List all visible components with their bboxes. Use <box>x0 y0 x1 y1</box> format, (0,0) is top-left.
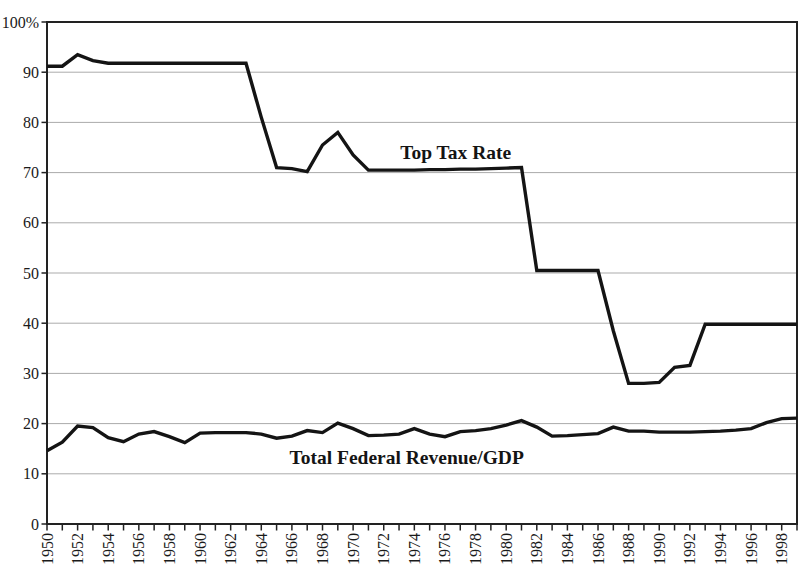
x-tick-label: 1958 <box>161 533 178 565</box>
y-tick-label: 90 <box>23 64 39 81</box>
x-tick-label: 1970 <box>345 533 362 565</box>
x-tick-label: 1954 <box>100 533 117 565</box>
y-tick-label: 10 <box>23 465 39 482</box>
y-tick-label: 0 <box>31 516 39 533</box>
x-tick-label: 1976 <box>436 533 453 565</box>
x-tick-label: 1984 <box>559 533 576 565</box>
tax-rate-vs-revenue-chart: 100%908070605040302010019501952195419561… <box>0 0 805 581</box>
x-tick-label: 1998 <box>773 533 790 565</box>
y-tick-label: 40 <box>23 315 39 332</box>
x-tick-label: 1982 <box>528 533 545 565</box>
x-tick-label: 1964 <box>253 533 270 565</box>
x-tick-label: 1966 <box>283 533 300 565</box>
x-tick-label: 1988 <box>620 533 637 565</box>
y-tick-label: 60 <box>23 214 39 231</box>
x-tick-label: 1962 <box>222 533 239 565</box>
series-label-total-federal-revenue-gdp: Total Federal Revenue/GDP <box>290 447 524 468</box>
x-tick-label: 1980 <box>498 533 515 565</box>
x-tick-label: 1974 <box>406 533 423 565</box>
x-tick-label: 1986 <box>590 533 607 565</box>
chart-svg: 100%908070605040302010019501952195419561… <box>0 0 805 581</box>
x-tick-label: 1960 <box>192 533 209 565</box>
x-tick-label: 1950 <box>39 533 56 565</box>
y-tick-label: 30 <box>23 365 39 382</box>
chart-page: 100%908070605040302010019501952195419561… <box>0 0 805 581</box>
y-tick-label: 50 <box>23 265 39 282</box>
x-tick-label: 1968 <box>314 533 331 565</box>
series-line-top-tax-rate <box>47 55 797 384</box>
x-tick-label: 1952 <box>69 533 86 565</box>
x-tick-label: 1996 <box>743 533 760 565</box>
y-tick-label: 20 <box>23 415 39 432</box>
y-tick-label: 80 <box>23 114 39 131</box>
x-tick-label: 1992 <box>681 533 698 565</box>
x-tick-label: 1978 <box>467 533 484 565</box>
x-tick-label: 1990 <box>651 533 668 565</box>
x-tick-label: 1994 <box>712 533 729 565</box>
y-tick-label: 100% <box>2 14 39 31</box>
x-tick-label: 1956 <box>130 533 147 565</box>
y-tick-label: 70 <box>23 164 39 181</box>
chart-generated-layers: 100%908070605040302010019501952195419561… <box>2 14 797 566</box>
series-label-top-tax-rate: Top Tax Rate <box>400 142 511 163</box>
x-tick-label: 1972 <box>375 533 392 565</box>
